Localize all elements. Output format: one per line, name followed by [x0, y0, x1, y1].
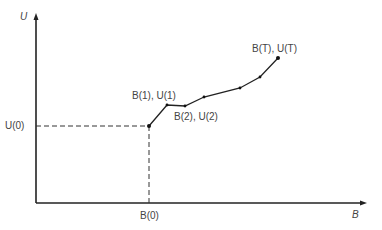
u0-label: U(0) — [5, 120, 24, 131]
horizontal-axis-label: B — [352, 209, 359, 220]
y-axis-label: U — [20, 11, 28, 22]
b0-label: B(0) — [140, 210, 159, 221]
point-3 — [203, 96, 206, 99]
diagram-canvas: U B B B U(0) B(0) B(1), U(1) B(2), U(2) … — [0, 0, 382, 230]
point-T — [276, 56, 280, 60]
point-1 — [166, 104, 169, 107]
x-axis-arrow-icon — [360, 201, 367, 206]
point-4 — [239, 87, 242, 90]
y-axis-arrow-icon — [34, 13, 39, 20]
point-5 — [259, 76, 262, 79]
point-2 — [184, 105, 187, 108]
point-1-label: B(1), U(1) — [132, 90, 176, 101]
point-0 — [147, 124, 151, 128]
point-2-label: B(2), U(2) — [174, 111, 218, 122]
point-T-label: B(T), U(T) — [252, 43, 297, 54]
